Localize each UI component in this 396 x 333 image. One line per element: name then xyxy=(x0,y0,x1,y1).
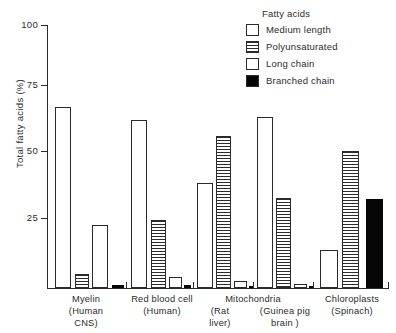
legend-title: Fatty acids xyxy=(262,8,394,19)
x-axis-line xyxy=(47,288,389,289)
x-group-sublabel-myelin-line1: (Human xyxy=(46,306,126,318)
legend-swatch-branched-chain-icon xyxy=(246,75,259,87)
y-tick-label-50: 50 xyxy=(8,146,38,156)
x-group-sublabel-rat-liver-line1: (Rat xyxy=(189,306,251,318)
x-group-sublabel-chloroplasts: (Spinach) xyxy=(310,306,394,318)
bar-myelin-medium-length xyxy=(55,107,71,288)
bar-myelin-branched-chain xyxy=(112,285,124,288)
x-group-label-chloroplasts: Chloroplasts xyxy=(310,294,394,306)
bar-red-blood-cell-long-chain xyxy=(169,277,182,288)
y-tick-label-75: 75 xyxy=(8,80,38,90)
legend-label-long-chain: Long chain xyxy=(266,58,314,69)
legend-label-medium-length: Medium length xyxy=(266,24,331,35)
x-group-label-red-blood-cell: Red blood cell xyxy=(117,294,207,306)
y-axis-line xyxy=(47,25,48,288)
x-group-label-myelin: Myelin xyxy=(46,294,126,306)
bar-myelin-polyunsaturated xyxy=(75,274,89,288)
bar-guinea-pig-brain-medium-length xyxy=(257,117,273,288)
group-separator-3 xyxy=(253,282,254,289)
group-separator-1 xyxy=(126,282,127,289)
bar-rat-liver-medium-length xyxy=(197,183,213,288)
bar-red-blood-cell-polyunsaturated xyxy=(151,220,166,288)
x-group-sublabel-myelin-line2: CNS) xyxy=(46,318,126,330)
y-tick-label-100: 100 xyxy=(8,20,38,30)
y-tick-mark-100 xyxy=(41,25,47,26)
bar-red-blood-cell-branched-chain xyxy=(184,285,191,288)
legend-item-long-chain: Long chain xyxy=(246,56,394,71)
bar-guinea-pig-brain-polyunsaturated xyxy=(276,198,291,288)
legend-label-branched-chain: Branched chain xyxy=(266,75,335,86)
bar-rat-liver-long-chain xyxy=(234,281,247,288)
legend-swatch-polyunsaturated-icon xyxy=(246,41,259,53)
bar-myelin-long-chain xyxy=(92,225,108,288)
group-separator-4 xyxy=(313,282,314,289)
group-separator-2 xyxy=(193,282,194,289)
group-separator-5 xyxy=(388,282,389,289)
bar-guinea-pig-brain-long-chain xyxy=(294,284,307,288)
x-group-sublabel-guinea-pig-brain-line2: brain ) xyxy=(247,318,323,330)
y-tick-mark-75 xyxy=(41,85,47,86)
legend-swatch-medium-length-icon xyxy=(246,24,259,36)
y-tick-label-25: 25 xyxy=(8,213,38,223)
bar-red-blood-cell-medium-length xyxy=(131,120,147,288)
y-tick-mark-50 xyxy=(41,151,47,152)
legend-label-polyunsaturated: Polyunsaturated xyxy=(266,41,338,52)
y-tick-mark-25 xyxy=(41,218,47,219)
bar-chloroplasts-branched-chain xyxy=(366,199,383,288)
bar-chloroplasts-polyunsaturated xyxy=(342,151,359,288)
x-group-label-mitochondria: Mitochondria xyxy=(200,294,306,306)
legend: Fatty acids Medium length Polyunsaturate… xyxy=(246,8,394,90)
legend-item-medium-length: Medium length xyxy=(246,22,394,37)
bar-guinea-pig-brain-branched-chain xyxy=(309,286,313,288)
bar-rat-liver-polyunsaturated xyxy=(216,136,231,288)
x-group-sublabel-rat-liver-line2: liver) xyxy=(189,318,251,330)
legend-item-polyunsaturated: Polyunsaturated xyxy=(246,39,394,54)
group-separator-0 xyxy=(47,282,48,289)
legend-swatch-long-chain-icon xyxy=(246,58,259,70)
bar-rat-liver-branched-chain xyxy=(249,286,253,288)
legend-item-branched-chain: Branched chain xyxy=(246,73,394,88)
fatty-acid-composition-chart: Total fatty acids (%) 100 75 50 25 Myeli… xyxy=(0,0,396,333)
bar-chloroplasts-medium-length xyxy=(320,250,338,288)
y-axis-title: Total fatty acids (%) xyxy=(14,59,25,189)
